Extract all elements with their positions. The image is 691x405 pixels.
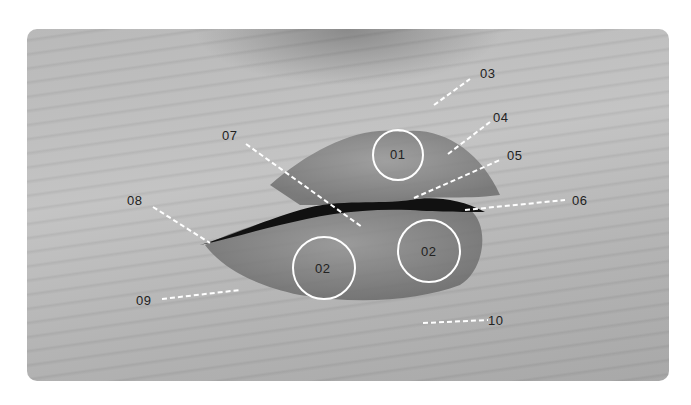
callout-label-08: 08 (127, 193, 142, 208)
callout-label-06: 06 (572, 193, 587, 208)
callout-line-10 (423, 320, 488, 323)
callout-line-05 (414, 160, 500, 198)
callout-line-08 (153, 207, 210, 243)
circle-label-02-left: 02 (315, 261, 330, 276)
callout-label-09: 09 (136, 293, 151, 308)
callout-label-10: 10 (488, 313, 503, 328)
circle-label-02-right: 02 (421, 244, 436, 259)
callout-label-07: 07 (222, 128, 237, 143)
circle-label-01: 01 (390, 147, 405, 162)
callout-line-07 (246, 144, 362, 227)
callout-line-09 (162, 290, 240, 299)
callout-label-05: 05 (507, 148, 522, 163)
callout-line-03 (434, 79, 470, 105)
callout-label-03: 03 (480, 66, 495, 81)
callout-label-04: 04 (493, 110, 508, 125)
callout-line-06 (465, 200, 565, 210)
callout-line-04 (448, 122, 490, 154)
